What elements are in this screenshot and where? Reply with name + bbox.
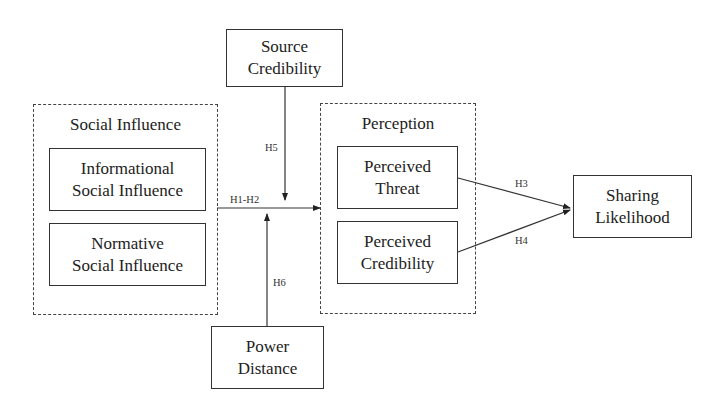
perceived-threat-line2: Threat bbox=[375, 178, 419, 200]
normative-social-influence-node: Normative Social Influence bbox=[49, 223, 206, 286]
informational-social-influence-node: Informational Social Influence bbox=[49, 148, 206, 211]
source-credibility-line2: Credibility bbox=[248, 58, 322, 80]
informational-line1: Informational bbox=[81, 158, 174, 180]
normative-line1: Normative bbox=[91, 233, 164, 255]
label-h6: H6 bbox=[273, 277, 286, 288]
label-h5: H5 bbox=[265, 142, 278, 153]
sharing-likelihood-node: Sharing Likelihood bbox=[573, 175, 692, 238]
perceived-credibility-line2: Credibility bbox=[361, 253, 435, 275]
power-distance-node: Power Distance bbox=[211, 326, 324, 389]
power-distance-line1: Power bbox=[246, 336, 289, 358]
perceived-threat-node: Perceived Threat bbox=[337, 146, 458, 209]
label-h4: H4 bbox=[515, 235, 528, 246]
perceived-credibility-node: Perceived Credibility bbox=[337, 221, 458, 284]
source-credibility-line1: Source bbox=[261, 36, 308, 58]
perceived-credibility-line1: Perceived bbox=[364, 231, 431, 253]
source-credibility-node: Source Credibility bbox=[226, 29, 343, 87]
sharing-likelihood-line1: Sharing bbox=[606, 185, 659, 207]
label-h1-h2: H1-H2 bbox=[230, 194, 259, 205]
power-distance-line2: Distance bbox=[238, 358, 297, 380]
social-influence-title: Social Influence bbox=[34, 115, 217, 135]
label-h3: H3 bbox=[515, 178, 528, 189]
perceived-threat-line1: Perceived bbox=[364, 156, 431, 178]
perception-title: Perception bbox=[321, 114, 475, 134]
sharing-likelihood-line2: Likelihood bbox=[595, 207, 670, 229]
normative-line2: Social Influence bbox=[72, 255, 183, 277]
informational-line2: Social Influence bbox=[72, 180, 183, 202]
